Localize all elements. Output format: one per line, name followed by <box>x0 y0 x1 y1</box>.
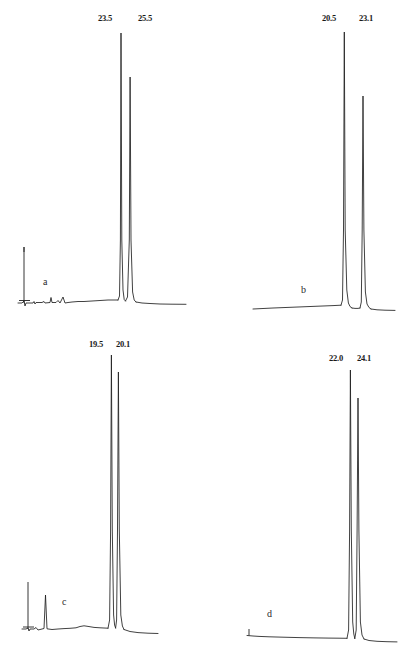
chromatogram-panel-b: 20.5 23.1 b <box>203 0 405 330</box>
panel-a-trace <box>0 0 203 330</box>
chromatogram-panel-c: 19.5 20.1 c <box>0 330 203 659</box>
chromatogram-panel-d: 22.0 24.1 d <box>203 330 405 659</box>
peak-label-c-1: 19.5 <box>89 339 103 349</box>
peak-label-c-2: 20.1 <box>116 339 130 349</box>
chromatogram-figure: 23.5 25.5 a 20.5 23.1 b <box>0 0 405 659</box>
chromatogram-panel-a: 23.5 25.5 a <box>0 0 203 330</box>
panel-letter-b: b <box>301 284 306 295</box>
peak-label-b-1: 20.5 <box>322 13 336 23</box>
panel-letter-a: a <box>43 276 47 287</box>
peak-label-d-2: 24.1 <box>357 353 371 363</box>
peak-label-b-2: 23.1 <box>359 13 373 23</box>
panel-b-trace <box>203 0 405 330</box>
peak-label-a-2: 25.5 <box>138 13 152 23</box>
panel-c-trace <box>0 330 203 659</box>
panel-d-trace <box>203 330 405 659</box>
peak-label-d-1: 22.0 <box>329 353 343 363</box>
peak-label-a-1: 23.5 <box>98 13 112 23</box>
panel-letter-d: d <box>267 608 272 619</box>
panel-letter-c: c <box>62 596 66 607</box>
